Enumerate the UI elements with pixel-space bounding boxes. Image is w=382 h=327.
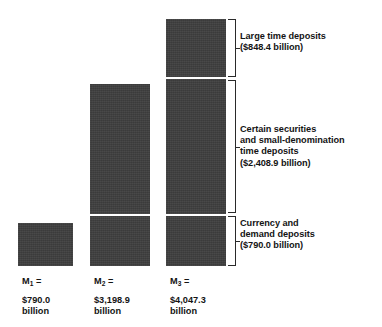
axis-label-m2-symbol: M (94, 276, 102, 286)
axis-label-m1: M1 = $790.0 billion (22, 276, 50, 318)
axis-label-m3-symbol: M (170, 276, 178, 286)
bar-m3 (166, 19, 226, 266)
axis-label-m3-subscript: 3 (178, 280, 182, 287)
annotation-currency-demand-deposits: Currency and demand deposits ($790.0 bil… (240, 218, 315, 252)
axis-label-m2: M2 = $3,198.9 billion (94, 276, 130, 318)
annotation-certain-securities: Certain securities and small-denominatio… (240, 124, 345, 169)
bracket-certain-securities (228, 80, 236, 213)
axis-label-m2-value: $3,198.9 billion (94, 295, 130, 318)
bracket-currency-demand-deposits (228, 216, 236, 266)
bracket-large-time-deposits (228, 19, 236, 77)
axis-label-m3: M3 = $4,047.3 billion (170, 276, 206, 318)
bar-m2 (90, 84, 150, 266)
bar-m1 (18, 223, 73, 266)
divider-m2-currency (90, 214, 150, 216)
axis-label-m1-name: M1 = (22, 276, 50, 288)
axis-label-m3-name: M3 = (170, 276, 206, 288)
divider-m3-currency (166, 214, 226, 216)
axis-label-m1-equals: = (33, 276, 41, 286)
axis-label-m2-name: M2 = (94, 276, 130, 288)
axis-label-m1-symbol: M (22, 276, 30, 286)
axis-label-m2-equals: = (105, 276, 113, 286)
divider-m3-large-time (166, 77, 226, 79)
axis-label-m3-value: $4,047.3 billion (170, 295, 206, 318)
annotation-large-time-deposits: Large time deposits ($848.4 billion) (240, 31, 326, 53)
axis-label-m2-subscript: 2 (102, 280, 106, 287)
axis-label-m1-subscript: 1 (30, 280, 34, 287)
money-supply-bar-chart: Large time deposits ($848.4 billion) Cer… (0, 0, 382, 327)
axis-label-m3-equals: = (181, 276, 189, 286)
axis-label-m1-value: $790.0 billion (22, 295, 50, 318)
